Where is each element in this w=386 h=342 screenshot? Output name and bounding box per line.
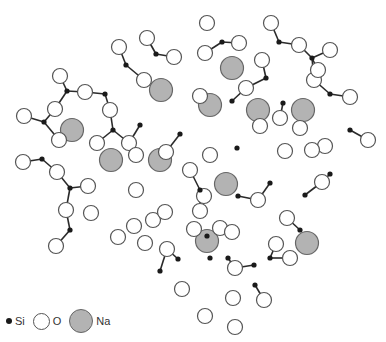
oxygen-atom bbox=[16, 155, 31, 170]
oxygen-atom bbox=[280, 211, 295, 226]
silicon-atom bbox=[67, 227, 72, 232]
oxygen-atom bbox=[138, 236, 153, 251]
silicon-atom bbox=[64, 88, 69, 93]
oxygen-atom bbox=[273, 111, 288, 126]
silicon-atom bbox=[252, 282, 257, 287]
oxygen-atom bbox=[198, 309, 213, 324]
oxygen-atom bbox=[226, 291, 241, 306]
oxygen-atom bbox=[228, 320, 243, 335]
oxygen-atom bbox=[103, 103, 118, 118]
oxygen-atom bbox=[137, 73, 152, 88]
oxygen-atom bbox=[361, 133, 376, 148]
oxygen-atom bbox=[200, 16, 215, 31]
oxygen-atom bbox=[160, 242, 175, 257]
oxygen-atom bbox=[111, 230, 126, 245]
oxygen-atom bbox=[175, 282, 190, 297]
silicon-atom bbox=[219, 39, 224, 44]
oxygen-atom bbox=[84, 206, 99, 221]
silicon-atom bbox=[234, 145, 239, 150]
oxygen-atom bbox=[90, 136, 105, 151]
oxygen-atom bbox=[140, 31, 155, 46]
silicon-atom bbox=[123, 62, 128, 67]
silicon-atom bbox=[137, 122, 142, 127]
silicon-atom bbox=[276, 39, 281, 44]
oxygen-atom bbox=[255, 53, 270, 68]
silicon-atom bbox=[229, 98, 234, 103]
sodium-ion bbox=[215, 173, 238, 196]
silicon-atom bbox=[302, 192, 307, 197]
oxygen-atom bbox=[158, 205, 173, 220]
silicon-atom bbox=[102, 91, 107, 96]
silicon-atom bbox=[280, 100, 285, 105]
silicon-atom bbox=[67, 185, 72, 190]
oxygen-atom bbox=[232, 36, 247, 51]
oxygen-atom bbox=[198, 46, 213, 61]
sodium-ion bbox=[100, 149, 123, 172]
silicon-atom bbox=[309, 55, 314, 60]
silicon-atom bbox=[327, 91, 332, 96]
legend: Si O Na bbox=[6, 308, 118, 334]
legend-label-si: Si bbox=[15, 315, 25, 327]
legend-item-si: Si bbox=[6, 315, 25, 327]
silicon-atom bbox=[235, 193, 240, 198]
silicon-atom bbox=[207, 255, 212, 260]
silicon-atom bbox=[297, 227, 302, 232]
oxygen-atom bbox=[129, 183, 144, 198]
oxygen-atoms bbox=[16, 16, 376, 335]
oxygen-atom bbox=[193, 204, 208, 219]
silicon-atom bbox=[197, 187, 202, 192]
oxygen-atom bbox=[323, 43, 338, 58]
oxygen-atom bbox=[127, 219, 142, 234]
silicon-atom bbox=[263, 75, 268, 80]
silicon-atom bbox=[267, 255, 272, 260]
oxygen-circle-icon bbox=[33, 313, 50, 330]
silicon-atom bbox=[110, 127, 115, 132]
oxygen-atom bbox=[78, 85, 93, 100]
oxygen-atom bbox=[278, 144, 293, 159]
oxygen-atom bbox=[264, 16, 279, 31]
silicon-atom bbox=[251, 262, 256, 267]
oxygen-atom bbox=[228, 261, 243, 276]
oxygen-atom bbox=[112, 40, 127, 55]
sodium-ion bbox=[221, 57, 244, 80]
sodium-ion bbox=[150, 79, 173, 102]
legend-label-o: O bbox=[53, 315, 62, 327]
silicate-structure-diagram bbox=[0, 0, 386, 342]
oxygen-atom bbox=[183, 163, 198, 178]
legend-label-na: Na bbox=[96, 315, 110, 327]
silicon-atom bbox=[225, 255, 230, 260]
silicon-atom bbox=[204, 233, 209, 238]
oxygen-atom bbox=[129, 148, 144, 163]
sodium-circle-icon bbox=[69, 309, 93, 333]
oxygen-atom bbox=[311, 63, 326, 78]
silicon-atom bbox=[39, 156, 44, 161]
oxygen-atom bbox=[305, 143, 320, 158]
oxygen-atom bbox=[159, 145, 174, 160]
silicon-atom bbox=[347, 127, 352, 132]
oxygen-atom bbox=[343, 90, 358, 105]
sodium-ion bbox=[292, 99, 315, 122]
si-dot-icon bbox=[6, 318, 12, 324]
oxygen-atom bbox=[193, 89, 208, 104]
silicon-atom bbox=[41, 119, 46, 124]
silicon-atom bbox=[153, 51, 158, 56]
oxygen-atom bbox=[53, 69, 68, 84]
oxygen-atom bbox=[187, 222, 202, 237]
oxygen-atom bbox=[167, 50, 182, 65]
oxygen-atom bbox=[50, 165, 65, 180]
sodium-ion bbox=[247, 99, 270, 122]
oxygen-atom bbox=[52, 133, 67, 148]
oxygen-atom bbox=[49, 239, 64, 254]
oxygen-atom bbox=[251, 193, 266, 208]
silicon-atom bbox=[327, 171, 332, 176]
oxygen-atom bbox=[257, 293, 272, 308]
oxygen-atom bbox=[315, 175, 330, 190]
oxygen-atom bbox=[239, 81, 254, 96]
oxygen-atom bbox=[81, 179, 96, 194]
oxygen-atom bbox=[283, 251, 298, 266]
silicon-atom bbox=[267, 180, 272, 185]
oxygen-atom bbox=[292, 38, 307, 53]
oxygen-atom bbox=[59, 203, 74, 218]
sodium-ion bbox=[296, 232, 319, 255]
legend-item-o: O bbox=[33, 313, 62, 330]
